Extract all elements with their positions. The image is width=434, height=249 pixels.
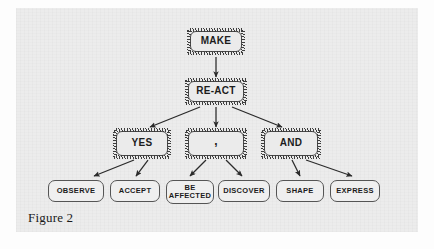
node-label: OBSERVE xyxy=(57,187,96,195)
node-shape: SHAPE xyxy=(276,180,324,202)
node-label: DISCOVER xyxy=(223,187,265,195)
hatch-left xyxy=(187,30,191,53)
hatch-left xyxy=(113,130,117,157)
node-label: SHAPE xyxy=(286,187,313,195)
hatch-left xyxy=(185,130,189,157)
node-and: AND xyxy=(264,131,318,156)
node-label: , xyxy=(214,135,218,148)
node-comma: , xyxy=(188,131,244,156)
hatch-right xyxy=(243,130,247,157)
node-discover: DISCOVER xyxy=(218,180,270,202)
node-express: EXPRESS xyxy=(330,180,380,202)
hatch-right xyxy=(167,130,171,157)
hatch-right xyxy=(243,80,247,103)
node-label: ACCEPT xyxy=(119,187,152,195)
figure-caption: Figure 2 xyxy=(28,210,73,226)
node-label: BE AFFECTED xyxy=(169,184,211,200)
node-observe: OBSERVE xyxy=(48,180,104,202)
hatch-left xyxy=(261,130,265,157)
node-label: EXPRESS xyxy=(336,187,374,195)
node-make: MAKE xyxy=(190,31,242,52)
node-be-affected: BE AFFECTED xyxy=(166,180,214,204)
node-react: RE-ACT xyxy=(188,81,244,102)
node-yes: YES xyxy=(116,131,168,156)
node-label: YES xyxy=(132,138,153,149)
hatch-left xyxy=(185,80,189,103)
hatch-right xyxy=(317,130,321,157)
node-label: RE-ACT xyxy=(196,86,236,97)
node-label: MAKE xyxy=(201,36,232,47)
figure-page: MAKE RE-ACT YES , AND OBSERVE ACCEPT BE … xyxy=(0,0,434,249)
hatch-right xyxy=(241,30,245,53)
node-accept: ACCEPT xyxy=(110,180,160,202)
node-label: AND xyxy=(280,138,303,149)
